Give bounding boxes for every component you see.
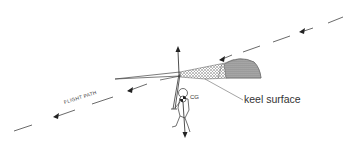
cg-symbol-icon <box>180 96 186 102</box>
arrowhead-icon <box>219 56 225 62</box>
cg-label: CG <box>190 94 199 100</box>
flight-path-line <box>14 17 343 131</box>
keel-leader-line <box>205 79 243 100</box>
arrowhead-icon <box>53 113 59 119</box>
pilot-figure <box>172 89 190 133</box>
arrow-up-icon <box>176 46 181 52</box>
keel-surface-label: keel surface <box>244 93 301 105</box>
wing-outline <box>115 72 180 80</box>
hang-glider-diagram <box>0 0 363 147</box>
arrowhead-icon <box>299 28 305 34</box>
arrow-down-icon <box>183 132 188 138</box>
lift-arrow <box>176 46 181 74</box>
arrowhead-icon <box>127 87 133 93</box>
keel-hump <box>224 59 261 78</box>
